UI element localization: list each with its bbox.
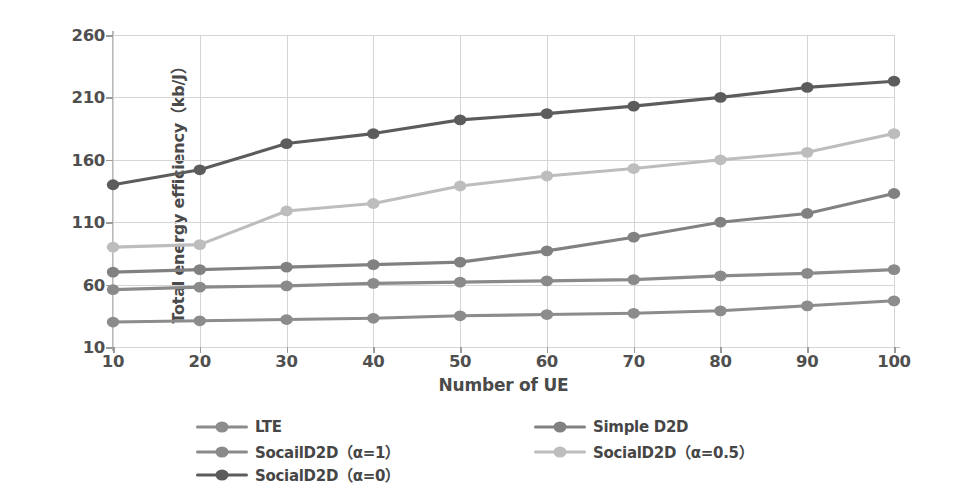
- x-axis-tick-label: 30: [275, 352, 297, 371]
- legend-label: SocialD2D（α=0.5）: [593, 441, 753, 462]
- legend-item[interactable]: SocialD2D（α=0.5）: [534, 441, 753, 462]
- data-point: [194, 282, 206, 293]
- x-axis-tick-label: 20: [189, 352, 211, 371]
- series-line: [113, 301, 894, 322]
- data-point: [627, 308, 639, 319]
- data-point: [454, 310, 466, 321]
- legend-marker-icon: [196, 468, 248, 482]
- data-point: [367, 278, 379, 289]
- data-point: [714, 217, 726, 228]
- y-axis-tick-labels: 1060110160210260: [55, 35, 105, 347]
- data-point: [541, 275, 553, 286]
- series-3: [107, 128, 900, 252]
- x-axis-title: Number of UE: [113, 375, 894, 395]
- series-line: [113, 134, 894, 248]
- chart-figure: Total energy efficiency（kb/J） 1060110160…: [0, 0, 973, 499]
- data-point: [194, 164, 206, 175]
- data-point: [888, 295, 900, 306]
- y-axis-tick-label: 110: [71, 213, 105, 232]
- data-point: [714, 270, 726, 281]
- data-point: [280, 262, 292, 273]
- y-axis-tick: [106, 347, 113, 349]
- legend-item[interactable]: SocialD2D（α=0）: [196, 464, 400, 485]
- legend-label: SocailD2D（α=1）: [255, 441, 400, 462]
- legend-item[interactable]: Simple D2D: [534, 418, 688, 436]
- legend-dot: [554, 422, 567, 433]
- data-point: [194, 315, 206, 326]
- x-axis-tick-label: 90: [796, 352, 818, 371]
- data-point: [801, 82, 813, 93]
- x-axis-tick-labels: 102030405060708090100: [113, 352, 894, 376]
- data-point: [888, 76, 900, 87]
- x-axis-tick-label: 10: [102, 352, 124, 371]
- legend-dot: [216, 469, 229, 480]
- series-line: [113, 270, 894, 290]
- data-point: [801, 300, 813, 311]
- series-plot: [113, 35, 894, 347]
- y-axis-tick: [106, 160, 113, 162]
- legend-dot: [554, 446, 567, 457]
- y-axis-tick-label: 60: [83, 275, 105, 294]
- x-axis-tick-label: 80: [709, 352, 731, 371]
- legend-dot: [216, 446, 229, 457]
- data-point: [541, 108, 553, 119]
- data-point: [627, 163, 639, 174]
- y-axis-title-holder: Total energy efficiency（kb/J）: [110, 35, 111, 347]
- x-axis-tick-label: 60: [536, 352, 558, 371]
- data-point: [107, 242, 119, 253]
- series-0: [107, 295, 900, 327]
- data-point: [541, 309, 553, 320]
- data-point: [801, 208, 813, 219]
- data-point: [714, 154, 726, 165]
- data-point: [107, 317, 119, 328]
- data-point: [888, 264, 900, 275]
- y-axis-tick-label: 260: [71, 26, 105, 45]
- data-point: [107, 284, 119, 295]
- data-point: [714, 92, 726, 103]
- legend-marker-icon: [196, 445, 248, 459]
- data-point: [454, 181, 466, 192]
- data-point: [367, 128, 379, 139]
- legend-label: LTE: [255, 418, 282, 436]
- gridline-horizontal: [113, 347, 894, 348]
- legend-item[interactable]: SocailD2D（α=1）: [196, 441, 400, 462]
- data-point: [367, 313, 379, 324]
- y-axis-tick-label: 210: [71, 88, 105, 107]
- y-axis-tick: [106, 35, 113, 37]
- data-point: [367, 198, 379, 209]
- data-point: [367, 259, 379, 270]
- chart-legend: LTESocailD2D（α=1）SocialD2D（α=0）Simple D2…: [196, 418, 896, 486]
- legend-dot: [216, 422, 229, 433]
- series-4: [107, 76, 900, 190]
- y-axis-tick-label: 160: [71, 150, 105, 169]
- data-point: [280, 314, 292, 325]
- data-point: [627, 101, 639, 112]
- data-point: [280, 280, 292, 291]
- data-point: [541, 171, 553, 182]
- data-point: [280, 206, 292, 217]
- data-point: [194, 239, 206, 250]
- data-point: [888, 188, 900, 199]
- y-axis-tick: [106, 222, 113, 224]
- series-1: [107, 188, 900, 277]
- data-point: [454, 114, 466, 125]
- data-point: [454, 257, 466, 268]
- data-point: [194, 264, 206, 275]
- legend-label: SocialD2D（α=0）: [255, 464, 400, 485]
- data-point: [801, 268, 813, 279]
- data-point: [107, 179, 119, 190]
- legend-item[interactable]: LTE: [196, 418, 282, 436]
- x-axis-tick-label: 40: [362, 352, 384, 371]
- data-point: [888, 128, 900, 139]
- legend-marker-icon: [196, 420, 248, 434]
- legend-label: Simple D2D: [593, 418, 688, 436]
- data-point: [541, 246, 553, 257]
- x-axis-tick-label: 50: [449, 352, 471, 371]
- series-line: [113, 81, 894, 185]
- data-point: [627, 274, 639, 285]
- data-point: [280, 138, 292, 149]
- x-axis-tick-label: 100: [877, 352, 911, 371]
- x-axis-tick-label: 70: [622, 352, 644, 371]
- data-point: [627, 232, 639, 243]
- data-point: [107, 267, 119, 278]
